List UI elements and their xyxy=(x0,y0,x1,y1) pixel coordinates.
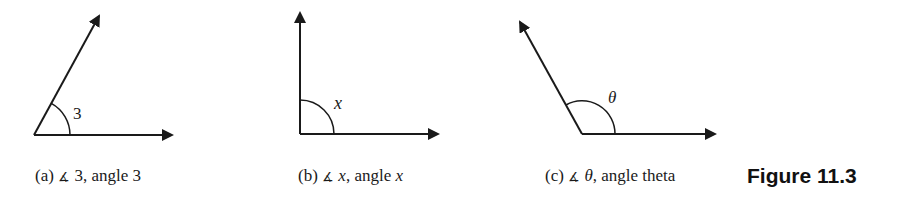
figure-title: Figure 11.3 xyxy=(747,164,857,188)
caption-prefix: (c) xyxy=(545,166,568,185)
caption-a: (a) ∡ 3, angle 3 xyxy=(35,166,141,186)
caption-name: 3 xyxy=(70,166,83,185)
caption-prefix: (b) xyxy=(298,166,322,185)
angle-arc xyxy=(51,103,70,135)
angle-a-diagram: 3 xyxy=(34,16,172,135)
caption-var: x xyxy=(395,166,403,185)
angle-theta-diagram: θ xyxy=(520,22,715,134)
caption-b: (b) ∡ x, angle x xyxy=(298,166,403,186)
ray-oblique xyxy=(34,16,99,135)
angle-symbol-icon: ∡ xyxy=(58,169,70,184)
ray-oblique xyxy=(520,22,582,134)
angle-arc xyxy=(300,100,334,134)
angle-symbol-icon: ∡ xyxy=(322,169,334,184)
caption-var: 3 xyxy=(132,166,141,185)
caption-c: (c) ∡ θ, angle theta xyxy=(545,166,675,186)
angle-label-c: θ xyxy=(608,88,616,107)
caption-name: θ xyxy=(580,166,593,185)
caption-name: x xyxy=(334,166,346,185)
caption-suffix: , angle xyxy=(346,166,396,185)
caption-suffix: , angle xyxy=(83,166,133,185)
angle-x-diagram: x xyxy=(300,13,438,134)
caption-prefix: (a) xyxy=(35,166,58,185)
caption-suffix: , angle theta xyxy=(593,166,676,185)
angle-symbol-icon: ∡ xyxy=(568,169,580,184)
angle-label-b: x xyxy=(333,93,342,113)
angle-label-a: 3 xyxy=(73,104,82,123)
